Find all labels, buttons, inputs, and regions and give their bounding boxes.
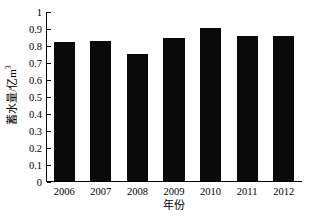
- y-axis-tick-mark: [47, 182, 51, 183]
- y-axis-title-text: 蓄水量/亿m: [6, 69, 18, 125]
- y-axis-title: 蓄水量/亿m3: [0, 0, 22, 190]
- y-axis-tick-mark: [47, 114, 51, 115]
- bar: [273, 36, 294, 181]
- y-axis-tick-mark: [47, 63, 51, 64]
- y-axis-tick-label: 0.7: [29, 58, 42, 69]
- y-axis-tick-mark: [47, 29, 51, 30]
- y-axis-tick-label: 0.3: [29, 126, 42, 137]
- y-axis-tick-label: 0.2: [29, 143, 42, 154]
- y-axis-tick-mark: [47, 80, 51, 81]
- y-axis-tick-mark: [47, 131, 51, 132]
- y-axis-tick-label: 0.5: [29, 92, 42, 103]
- y-axis-tick-mark: [47, 97, 51, 98]
- y-axis-title-superscript: 3: [4, 65, 13, 69]
- y-axis-tick-label: 0.9: [29, 24, 42, 35]
- x-axis-line: [46, 181, 302, 182]
- chart-figure: 蓄水量/亿m3 00.10.20.30.40.50.60.70.80.91 20…: [0, 0, 316, 222]
- y-axis-tick-mark: [47, 12, 51, 13]
- y-axis-tick-label: 0.1: [29, 160, 42, 171]
- plot-area: 00.10.20.30.40.50.60.70.80.91 2006200720…: [46, 12, 302, 182]
- bar: [200, 28, 221, 181]
- bar: [163, 38, 184, 181]
- y-axis-tick-label: 0: [37, 177, 42, 188]
- bar: [237, 36, 258, 181]
- bar: [127, 54, 148, 182]
- x-axis-title: 年份: [46, 196, 302, 212]
- y-axis-tick-label: 0.6: [29, 75, 42, 86]
- y-axis-tick-mark: [47, 148, 51, 149]
- y-axis-tick-label: 1: [37, 7, 42, 18]
- y-axis-tick-mark: [47, 165, 51, 166]
- y-axis-tick-mark: [47, 46, 51, 47]
- bar: [90, 41, 111, 181]
- bar: [54, 42, 75, 181]
- y-axis-tick-label: 0.8: [29, 41, 42, 52]
- y-axis-tick-label: 0.4: [29, 109, 42, 120]
